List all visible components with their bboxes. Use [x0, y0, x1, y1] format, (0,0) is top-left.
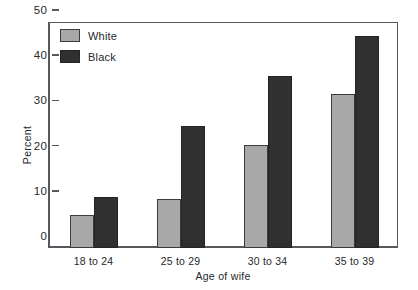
y-axis-tick: 40 [34, 49, 50, 61]
bar-white [70, 215, 94, 248]
bar-black [94, 197, 118, 248]
y-axis-tick-mark [52, 9, 59, 11]
bar-group: 35 to 39 [311, 22, 398, 248]
bar-black [355, 36, 379, 248]
x-axis-tick-label: 30 to 34 [248, 255, 288, 267]
bar-white [244, 145, 268, 248]
x-axis-title: Age of wife [48, 270, 398, 282]
x-axis-tick-label: 25 to 29 [161, 255, 201, 267]
x-axis-tick-label: 18 to 24 [74, 255, 114, 267]
legend-label: Black [88, 51, 116, 63]
y-axis-title: Percent [21, 126, 33, 164]
x-axis-tick-label: 35 to 39 [335, 255, 375, 267]
bar-chart-figure: Percent 01020304050 18 to 2425 to 2930 t… [0, 0, 418, 290]
bar-group: 25 to 29 [137, 22, 224, 248]
legend-item: White [60, 27, 117, 44]
bar-black [181, 126, 205, 248]
y-axis-tick: 0 [40, 230, 50, 242]
bar-white [331, 94, 355, 248]
y-axis-tick: 30 [34, 94, 50, 106]
legend-item: Black [60, 48, 117, 65]
bar-white [157, 199, 181, 248]
legend-swatch-black [60, 50, 80, 63]
chart-legend: WhiteBlack [60, 27, 117, 69]
y-axis-tick: 50 [34, 4, 50, 16]
legend-swatch-white [60, 29, 80, 42]
bar-group: 30 to 34 [224, 22, 311, 248]
legend-label: White [88, 30, 117, 42]
y-axis-tick: 20 [34, 140, 50, 152]
y-axis-tick: 10 [34, 185, 50, 197]
bar-black [268, 76, 292, 248]
y-axis-tick-label: 50 [34, 4, 52, 16]
